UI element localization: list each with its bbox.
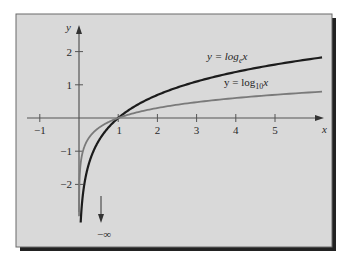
x-tick-label: 2 xyxy=(155,124,161,136)
curve-label-ln-var: x xyxy=(241,50,247,62)
curve-label-log10-var: x xyxy=(262,76,268,88)
y-tick-label: 2 xyxy=(67,46,73,58)
x-tick-label: −1 xyxy=(34,124,46,136)
curve-label-log10-prefix: y = log xyxy=(224,76,256,88)
y-axis-label: y xyxy=(65,21,71,33)
chart: x y −11234521−1−2 y = logex y = log10x −… xyxy=(0,0,348,263)
y-tick-label: −2 xyxy=(60,178,72,190)
x-axis-label: x xyxy=(321,123,327,135)
curve-label-ln-prefix: y = log xyxy=(206,50,239,62)
neg-infinity-label: −∞ xyxy=(97,228,111,240)
y-tick-label: −1 xyxy=(60,145,72,157)
curve-label-log10-sub: 10 xyxy=(255,82,263,91)
panel-background xyxy=(16,14,332,247)
x-tick-label: 1 xyxy=(116,124,122,136)
y-tick-label: 1 xyxy=(67,79,73,91)
x-tick-label: 5 xyxy=(272,124,278,136)
x-tick-label: 3 xyxy=(194,124,200,136)
x-tick-label: 4 xyxy=(233,124,239,136)
